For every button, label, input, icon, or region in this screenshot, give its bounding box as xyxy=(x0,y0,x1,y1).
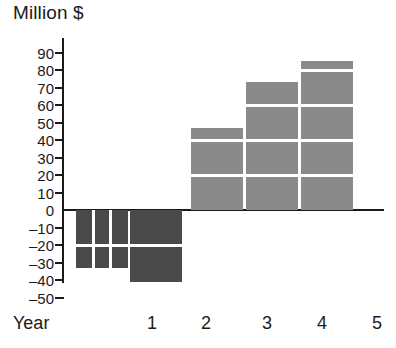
bar-segment-divider xyxy=(76,244,128,247)
bar-segment-divider xyxy=(246,104,298,107)
bar-segment-divider xyxy=(191,139,243,142)
bar-vertical-divider xyxy=(109,210,112,268)
bar-segment-divider xyxy=(191,174,243,177)
bar-segment-divider xyxy=(301,104,353,107)
bar-segment-divider xyxy=(130,244,182,247)
y-axis-tick-label: –40 xyxy=(14,273,54,288)
bar xyxy=(76,210,128,268)
y-axis-tick xyxy=(55,139,64,141)
y-axis-tick xyxy=(55,279,64,281)
y-axis-tick-label: –10 xyxy=(14,221,54,236)
y-axis-tick xyxy=(55,157,64,159)
x-axis-tick-label: 4 xyxy=(307,312,337,334)
y-axis-tick xyxy=(55,174,64,176)
y-axis-tick-label: –30 xyxy=(14,256,54,271)
bar xyxy=(191,128,243,210)
bar xyxy=(246,82,298,210)
y-axis-tick-label: 40 xyxy=(14,133,54,148)
y-axis-line xyxy=(62,38,64,283)
y-axis-tick xyxy=(55,244,64,246)
bar-segment-divider xyxy=(246,174,298,177)
x-axis-tick-label: 3 xyxy=(252,312,282,334)
bar xyxy=(301,61,353,210)
y-axis-tick-labels: 9080706050403020100–10–20–30–40–50 xyxy=(10,38,54,288)
chart-title: Million $ xyxy=(13,2,84,24)
bar-segment-divider xyxy=(301,174,353,177)
y-axis-tick xyxy=(55,122,64,124)
bar xyxy=(130,210,182,282)
y-axis-tick-label: 50 xyxy=(14,116,54,131)
bar-chart: Million $ 9080706050403020100–10–20–30–4… xyxy=(0,0,396,348)
y-axis-tick-label: –20 xyxy=(14,238,54,253)
y-axis-tick xyxy=(55,104,64,106)
y-axis-tick-label: 30 xyxy=(14,151,54,166)
y-axis-tick xyxy=(55,227,64,229)
x-axis-title: Year xyxy=(13,312,49,334)
y-axis-tick-label: –50 xyxy=(14,291,54,306)
y-axis-tick xyxy=(55,87,64,89)
y-axis-tick xyxy=(55,192,64,194)
bar-segment-divider xyxy=(301,139,353,142)
y-axis-tick-label: 90 xyxy=(14,46,54,61)
y-axis-tick xyxy=(55,262,64,264)
y-axis-tick xyxy=(55,69,64,71)
y-axis-tick-label: 20 xyxy=(14,168,54,183)
y-axis-tick-label: 0 xyxy=(14,203,54,218)
bar-segment-divider xyxy=(301,69,353,72)
bar-segment-divider xyxy=(246,139,298,142)
plot-area xyxy=(62,38,384,310)
x-axis-tick-label: 5 xyxy=(362,312,392,334)
y-axis-tick xyxy=(55,297,64,299)
y-axis-tick-label: 80 xyxy=(14,63,54,78)
x-axis-tick-labels: Year 12345 xyxy=(0,312,396,342)
y-axis-tick-label: 60 xyxy=(14,98,54,113)
x-axis-tick-label: 1 xyxy=(137,312,167,334)
bar-vertical-divider xyxy=(92,210,95,268)
x-axis-tick-label: 2 xyxy=(191,312,221,334)
y-axis-tick xyxy=(55,52,64,54)
y-axis-tick-label: 10 xyxy=(14,186,54,201)
y-axis-tick-label: 70 xyxy=(14,81,54,96)
